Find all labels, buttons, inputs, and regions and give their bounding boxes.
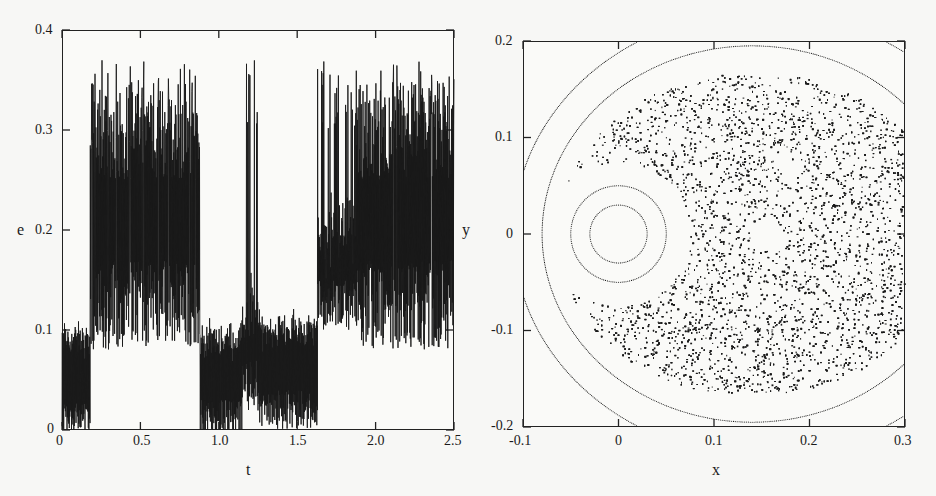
y-tick-label: 0.2	[495, 34, 513, 48]
x-tick-label: 0.1	[705, 434, 723, 448]
y-axis-title: y	[462, 222, 470, 238]
y-tick-label: 0.1	[495, 130, 513, 144]
poincare-scatter	[0, 0, 936, 496]
x-tick-label: 0.3	[894, 434, 912, 448]
x-axis-title: x	[712, 462, 720, 478]
y-tick-label: -0.1	[491, 323, 513, 337]
x-tick-label: 0.2	[800, 434, 818, 448]
poincare-section-plot: 0.2 0.1 0 -0.1 -0.2 y -0.1 0 0.1 0.2 0.3…	[0, 0, 936, 496]
x-tick-label: -0.1	[509, 434, 531, 448]
y-tick-label: -0.2	[491, 419, 513, 433]
x-tick-label: 0	[615, 434, 622, 448]
y-tick-label: 0	[506, 227, 513, 241]
